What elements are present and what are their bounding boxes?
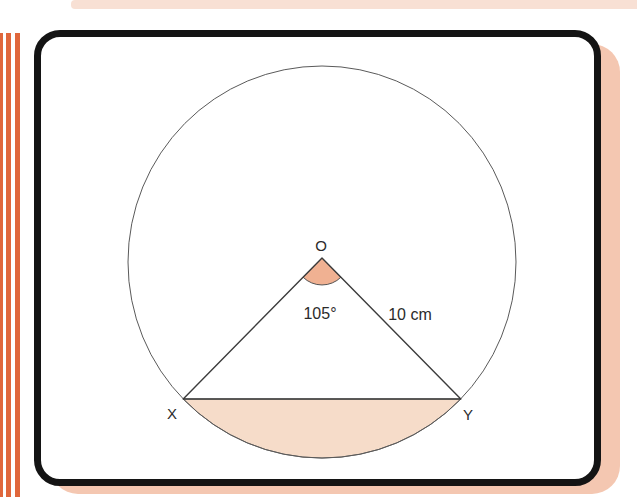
point-label-o: O — [315, 237, 327, 254]
point-label-y: Y — [463, 406, 473, 423]
geometry-diagram: O 105° 10 cm X Y — [0, 0, 637, 501]
shaded-segment — [183, 399, 461, 458]
point-label-x: X — [167, 405, 177, 422]
radius-value-label: 10 cm — [388, 306, 432, 323]
angle-value-label: 105° — [303, 305, 336, 322]
page: { "labels": { "center": "O", "angle": "1… — [0, 0, 637, 501]
